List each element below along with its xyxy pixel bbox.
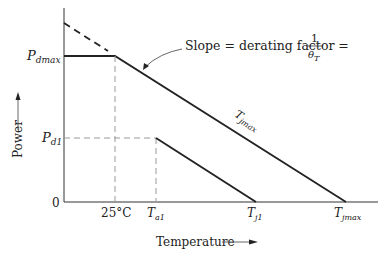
svg-text:Tjmax: Tjmax — [231, 108, 262, 135]
x-label-ta1: Ta1 — [147, 206, 165, 222]
y-label-pdmax: Pdmax — [26, 48, 61, 65]
y-label-pd1: Pd1 — [41, 130, 62, 147]
y-label-zero: 0 — [52, 196, 60, 210]
slope-annotation: Slope = derating factor = — [185, 38, 349, 53]
right-arrow-icon — [249, 240, 258, 245]
derating-curve-tjmax — [64, 56, 346, 202]
line-label-tjmax: Tjmax — [231, 108, 262, 135]
slope-pointer-arrow — [145, 49, 182, 67]
extrapolation-dashed-line — [64, 23, 108, 51]
x-label-25c: 25°C — [101, 206, 131, 220]
derating-diagram: Slope = derating factor = 1 θT Tjmax Pdm… — [0, 0, 384, 259]
x-label-tj1: Tj1 — [247, 206, 263, 222]
up-arrow-icon — [16, 92, 21, 100]
derating-curve-tj1 — [156, 138, 256, 202]
fraction-numerator: 1 — [311, 32, 318, 45]
x-label-tjmax: Tjmax — [334, 206, 362, 222]
